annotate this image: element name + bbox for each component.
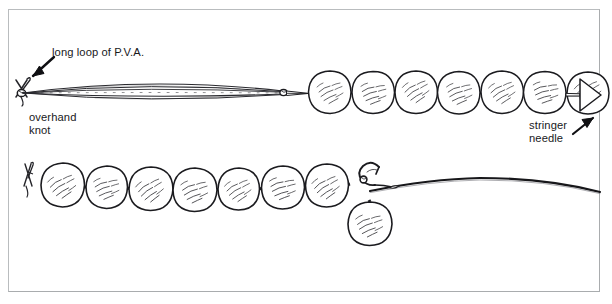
bait	[524, 72, 567, 114]
bait	[395, 71, 438, 114]
main-line-shape	[370, 178, 600, 194]
top-row-baits	[309, 71, 610, 114]
bait	[481, 71, 524, 114]
label-pva-loop: long loop of P.V.A.	[52, 46, 144, 59]
bait	[352, 72, 395, 114]
label-overhand-knot: overhand knot	[29, 111, 76, 138]
figure-canvas: long loop of P.V.A. overhand knot string…	[0, 0, 612, 304]
top-stringer-group	[16, 71, 609, 114]
bait	[41, 163, 85, 207]
bait	[306, 164, 349, 207]
arrow-down-left-icon	[33, 57, 54, 76]
bottom-row-baits	[41, 163, 392, 246]
bait	[309, 71, 352, 114]
bait	[262, 166, 305, 209]
bottom-stringer-group	[24, 162, 600, 245]
pva-loop-pinch	[280, 90, 309, 96]
bait	[86, 166, 128, 209]
loose-bait	[348, 202, 392, 246]
arrow-up-right-icon	[573, 118, 593, 134]
bait	[173, 168, 217, 212]
bait	[218, 168, 260, 210]
label-stringer-needle: stringer needle	[529, 119, 567, 146]
bait	[129, 167, 173, 211]
pva-loop-shape	[23, 84, 283, 99]
bait	[438, 72, 481, 115]
end-knot-shape	[24, 162, 33, 197]
fishing-hook-shape	[359, 163, 392, 187]
